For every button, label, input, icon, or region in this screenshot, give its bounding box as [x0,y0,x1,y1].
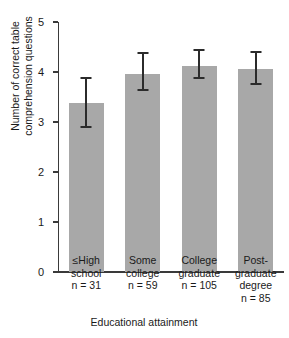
error-bar [85,78,87,127]
error-bar-cap-upper [81,77,92,79]
bar [125,74,160,272]
bar [182,66,217,273]
error-bar-cap-upper [250,51,261,53]
error-bar [142,53,144,90]
error-bar-cap-lower [81,126,92,128]
y-tick-label-0: 0 [38,266,44,277]
y-tick-2: 2 [53,171,58,172]
y-tick-5: 5 [53,21,58,22]
plot-area: 012345 [58,22,284,272]
y-axis-line [58,22,59,272]
x-category-label: College graduate n = 105 [167,254,232,292]
y-tick-label-1: 1 [38,216,44,227]
y-tick-3: 3 [53,121,58,122]
error-bar-cap-lower [137,89,148,91]
x-axis-title: Educational attainment [0,316,288,328]
error-bar-cap-lower [194,77,205,79]
y-tick-label-3: 3 [38,116,44,127]
x-category-label: Post-graduate degree n = 85 [224,254,289,304]
error-bar-cap-lower [250,83,261,85]
y-tick-label-4: 4 [38,66,44,77]
x-category-label: Some college n = 59 [111,254,176,292]
y-tick-label-2: 2 [38,166,44,177]
bar-chart-figure: Number of correct table comprehension qu… [0,0,288,338]
y-tick-1: 1 [53,221,58,222]
bar [238,69,273,272]
y-axis-title: Number of correct table comprehension qu… [9,0,35,191]
error-bar-cap-upper [194,49,205,51]
y-tick-label-5: 5 [38,17,44,28]
y-tick-4: 4 [53,71,58,72]
error-bar [255,52,257,84]
x-category-label: ≤High school n = 31 [54,254,119,292]
error-bar-cap-upper [137,52,148,54]
bar [69,103,104,272]
error-bar [198,50,200,78]
